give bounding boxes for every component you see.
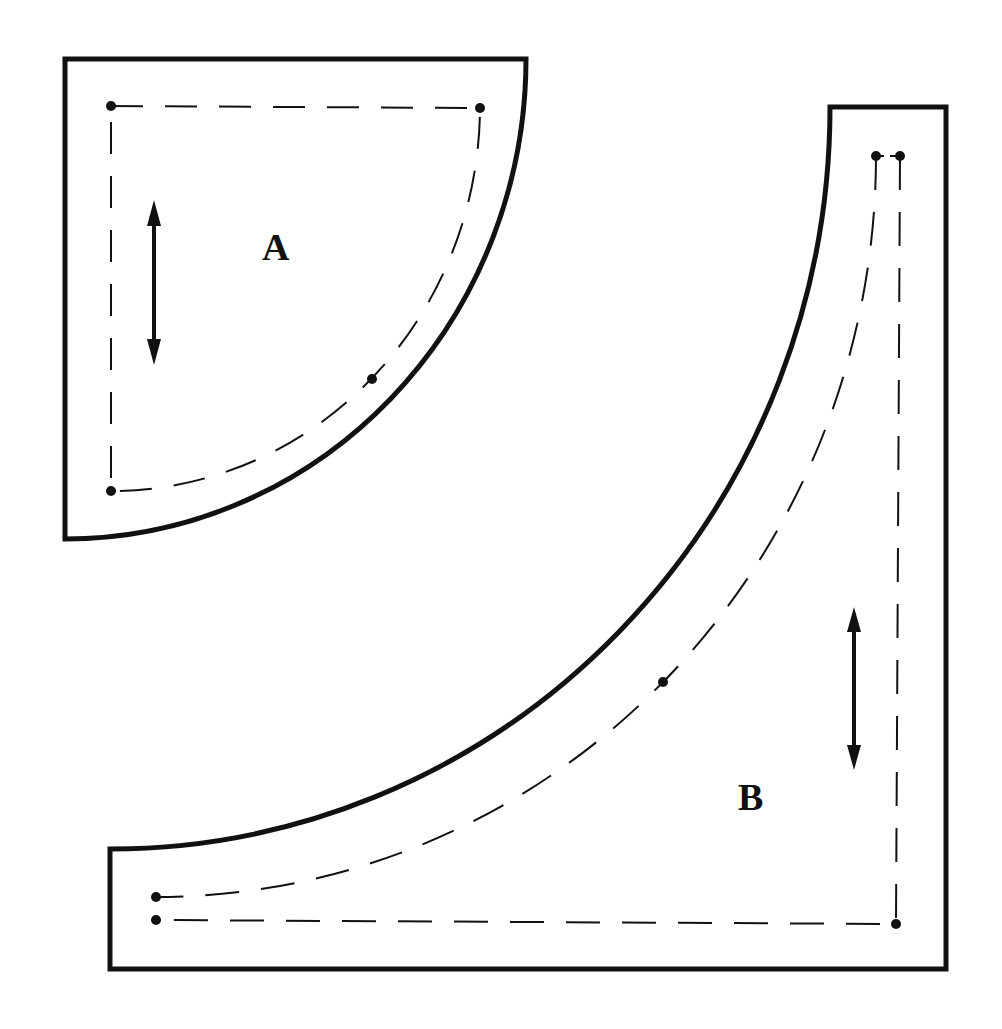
- piece-a-cut-line: [65, 59, 526, 539]
- piece-b-cut-line: [110, 107, 946, 969]
- piece-a-seam-dots: [106, 101, 485, 496]
- piece-b-seam-line-outer: [156, 156, 900, 924]
- piece-b: [110, 107, 946, 969]
- piece-b-label: B: [738, 778, 763, 816]
- piece-a-seam-line: [111, 106, 480, 491]
- piece-b-grainline-arrow: [847, 607, 861, 770]
- pattern-diagram: [0, 0, 1002, 1029]
- piece-a-label: A: [262, 228, 289, 266]
- piece-a-grainline-arrow: [147, 200, 161, 365]
- piece-a: [65, 59, 526, 539]
